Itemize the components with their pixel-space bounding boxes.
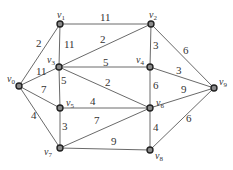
edge-weight-v0-v1: 2	[36, 37, 42, 49]
edge-weight-v5-v6: 4	[90, 95, 96, 107]
edge-weight-v0-v5: 7	[41, 83, 47, 95]
node-label-v9: v9	[219, 76, 227, 89]
node-v4	[147, 64, 153, 70]
edge-v0-v5	[19, 86, 60, 108]
edge-weight-v3-v4: 5	[103, 56, 109, 68]
edge-weight-v3-v2: 2	[100, 33, 106, 45]
node-v6	[147, 105, 153, 111]
node-label-subscript: 3	[51, 59, 55, 67]
edge-v7-v8	[60, 148, 150, 150]
node-v5	[57, 105, 63, 111]
node-label-subscript: 4	[140, 59, 144, 67]
node-label-v1: v1	[57, 9, 65, 22]
edge-v7-v6	[60, 108, 150, 148]
edge-v1-v3	[59, 24, 60, 67]
edge-v0-v7	[19, 86, 60, 148]
node-label-v7: v7	[44, 146, 52, 159]
edge-weight-v4-v6: 6	[153, 79, 159, 91]
edge-weight-v6-v9: 9	[181, 83, 187, 95]
node-label-v6: v6	[156, 97, 164, 110]
node-label-subscript: 7	[48, 151, 52, 159]
edge-weight-v0-v7: 4	[31, 109, 37, 121]
edge-weight-v6-v8: 4	[153, 121, 159, 133]
edge-weight-v3-v6: 2	[105, 76, 111, 88]
node-label-v4: v4	[136, 54, 144, 67]
node-label-v8: v8	[155, 150, 163, 163]
node-label-subscript: 9	[223, 81, 227, 89]
edge-weight-v3-v5: 5	[61, 74, 67, 86]
edge-v2-v4	[150, 24, 151, 67]
weighted-graph: 211111125523636744379946 v0v1v2v3v4v5v6v…	[0, 0, 233, 170]
node-label-subscript: 2	[153, 14, 157, 22]
edge-v2-v9	[151, 24, 214, 88]
edge-weight-v1-v3: 11	[64, 38, 75, 50]
node-label-v3: v3	[47, 54, 55, 67]
node-label-subscript: 8	[159, 155, 163, 163]
node-v8	[147, 147, 153, 153]
edge-weight-v2-v9: 6	[183, 44, 189, 56]
node-label-subscript: 5	[70, 102, 74, 110]
node-v7	[57, 145, 63, 151]
edge-weight-v2-v4: 3	[153, 39, 159, 51]
edge-weight-v7-v6: 7	[94, 114, 100, 126]
edge-weight-v8-v9: 6	[186, 112, 192, 124]
node-v9	[211, 85, 217, 91]
edge-weight-v5-v7: 3	[62, 120, 68, 132]
node-v3	[56, 64, 62, 70]
edge-weight-v0-v3: 11	[36, 65, 47, 77]
edge-weight-v7-v8: 9	[111, 135, 117, 147]
node-label-v0: v0	[7, 73, 15, 86]
edge-v3-v5	[59, 67, 60, 108]
node-v0	[16, 83, 22, 89]
node-label-subscript: 1	[61, 14, 65, 22]
node-label-subscript: 0	[11, 78, 15, 86]
edge-weight-v1-v2: 11	[100, 11, 111, 23]
edge-weight-v4-v9: 3	[176, 64, 182, 76]
node-label-subscript: 6	[160, 102, 164, 110]
node-label-v2: v2	[149, 9, 157, 22]
